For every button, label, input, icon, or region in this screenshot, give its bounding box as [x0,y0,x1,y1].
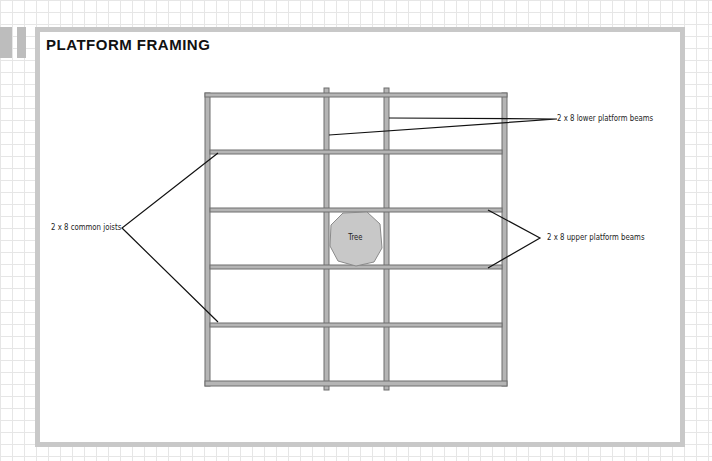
common-joist [210,323,502,327]
leader-upper-beams [488,210,540,268]
leader-lower-beams [329,118,557,135]
frame-side-right [502,93,507,386]
label-tree: Tree [348,233,362,242]
frame-rim-bottom [205,381,507,386]
upper-platform-beam [210,208,502,212]
frame-side-left [205,93,210,386]
leader-common-joists [122,153,218,322]
label-common-joists: 2 x 8 common joists [51,222,121,232]
lower-platform-beam [324,88,329,390]
common-joist [210,150,502,154]
label-lower-platform-beams: 2 x 8 lower platform beams [557,113,653,123]
lower-platform-beam [384,88,389,390]
label-upper-platform-beams: 2 x 8 upper platform beams [547,232,645,242]
frame-rim-top [205,93,507,97]
